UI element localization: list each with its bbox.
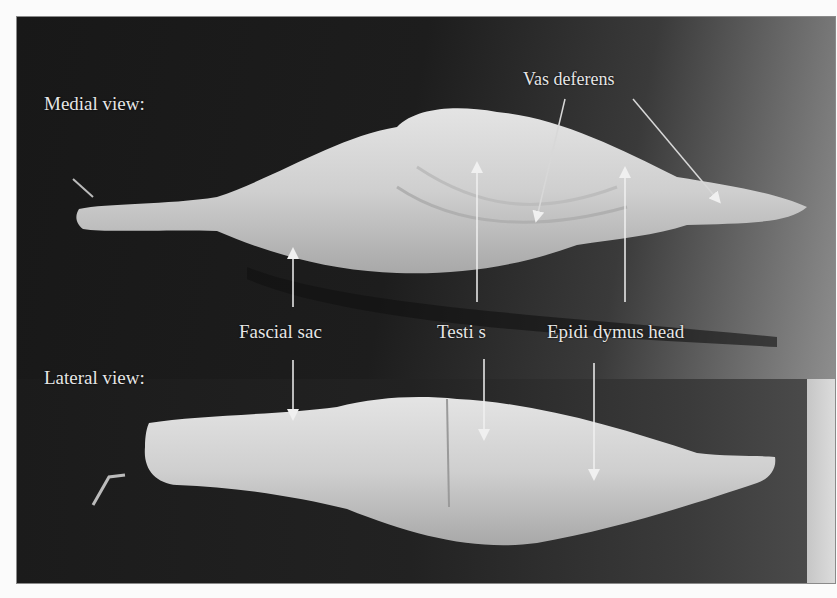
lateral-view-label: Lateral view: bbox=[44, 367, 145, 389]
fascial-sac-label: Fascial sac bbox=[239, 321, 322, 343]
lateral-specimen bbox=[93, 397, 775, 545]
testis-label: Testi s bbox=[437, 321, 486, 343]
medial-specimen bbox=[73, 108, 807, 347]
epididymus-head-label: Epidi dymus head bbox=[547, 321, 684, 343]
vas-deferens-label: Vas deferens bbox=[523, 69, 614, 90]
anatomy-figure: Medial view: Lateral view: Vas deferens … bbox=[16, 16, 836, 584]
medial-view-label: Medial view: bbox=[44, 93, 145, 115]
